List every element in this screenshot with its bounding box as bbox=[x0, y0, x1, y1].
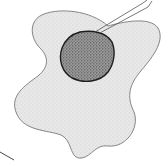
cell-diagram bbox=[0, 0, 168, 167]
leader-line-membrane bbox=[0, 152, 14, 160]
nucleus-shape bbox=[60, 31, 114, 81]
cell-illustration bbox=[0, 0, 168, 167]
